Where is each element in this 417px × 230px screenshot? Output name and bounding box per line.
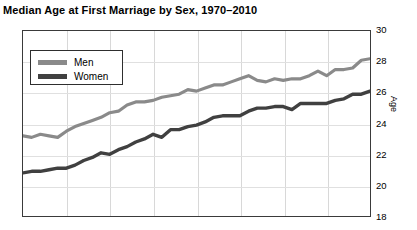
chart-container: Median Age at First Marriage by Sex, 197…: [0, 0, 417, 230]
y-axis-ticks: 30282624222018: [376, 30, 402, 217]
legend-item-women: Women: [38, 70, 108, 83]
y-axis-tick-label: 20: [376, 181, 387, 191]
y-axis-label: Age: [389, 96, 399, 112]
chart-title: Median Age at First Marriage by Sex, 197…: [3, 4, 257, 16]
series-line-women: [23, 91, 370, 173]
legend-label-women: Women: [74, 72, 108, 82]
y-axis-tick-label: 18: [376, 212, 387, 222]
legend-item-men: Men: [38, 56, 93, 69]
chart-legend: Men Women: [30, 50, 123, 85]
y-axis-tick-label: 30: [376, 25, 387, 35]
legend-label-men: Men: [74, 58, 93, 68]
legend-swatch-men: [38, 60, 67, 65]
y-axis-tick-label: 24: [376, 119, 387, 129]
legend-swatch-women: [38, 74, 67, 79]
y-axis-tick-label: 26: [376, 87, 387, 97]
y-axis-tick-label: 28: [376, 56, 387, 66]
y-axis-tick-label: 22: [376, 150, 387, 160]
